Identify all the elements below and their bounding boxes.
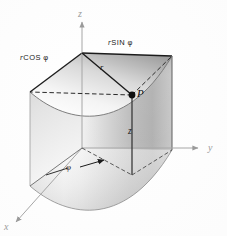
diagram-canvas [0,0,227,236]
point-p-marker [129,92,136,99]
cylindrical-coordinates-figure: z y x rCOS φ rSIN φ r P z φ [0,0,227,236]
